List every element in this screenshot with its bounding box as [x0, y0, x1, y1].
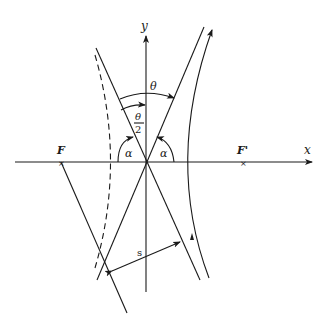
hyperbola-right-branch — [188, 30, 212, 278]
half-theta-arc — [121, 105, 145, 110]
half-theta-denominator: 2 — [135, 124, 141, 135]
branch-direction-arrow — [190, 233, 194, 240]
focus-line — [61, 162, 127, 313]
half-theta-numerator: θ — [135, 111, 141, 122]
alpha-left-label: α — [125, 147, 133, 160]
focus-left-label: F — [56, 144, 66, 157]
alpha-right-label: α — [160, 147, 168, 160]
y-axis-label: y — [140, 19, 148, 33]
focus-left-mark: × — [58, 159, 65, 168]
theta-label: θ — [150, 80, 157, 93]
hyperbola-diagram: × × y x F F' θ θ 2 α α s — [0, 0, 335, 324]
theta-arc — [120, 93, 174, 99]
focus-right-mark: × — [240, 159, 247, 168]
x-axis-label: x — [304, 143, 311, 157]
distance-s-label: s — [137, 247, 142, 258]
focus-right-label: F' — [236, 144, 248, 157]
